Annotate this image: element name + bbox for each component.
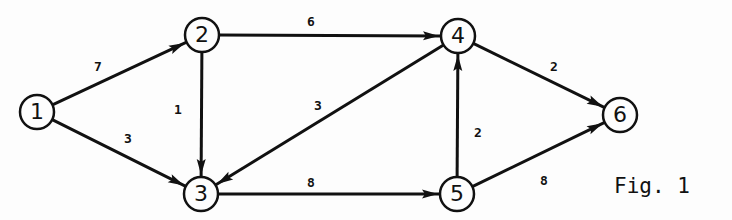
node-label: 5 [450, 181, 464, 206]
node-3: 3 [184, 177, 218, 211]
edge-weight-label: 3 [124, 131, 132, 146]
node-4: 4 [441, 19, 475, 53]
node-6: 6 [603, 98, 637, 132]
edge-line [472, 122, 604, 186]
edges-layer: 731638228 [52, 14, 605, 199]
edge-weight-label: 1 [174, 102, 182, 117]
edge-weight-label: 6 [307, 14, 315, 29]
edge-line [215, 45, 443, 185]
graph-svg: 731638228 123456 Fig. 1 [0, 0, 732, 220]
edge-line [52, 120, 186, 187]
edge-line [473, 43, 604, 107]
edge-2-4: 6 [219, 14, 441, 41]
edge-line [201, 52, 202, 177]
edge-3-5: 8 [218, 175, 440, 199]
edge-weight-label: 3 [314, 98, 322, 113]
edge-weight-label: 8 [540, 173, 548, 188]
edge-4-6: 2 [473, 43, 604, 107]
node-label: 6 [613, 102, 627, 127]
graph-diagram: 731638228 123456 Fig. 1 [0, 0, 732, 220]
edge-4-3: 3 [215, 45, 443, 185]
edge-line [457, 53, 458, 177]
edge-2-3: 1 [174, 52, 206, 177]
node-label: 1 [30, 99, 44, 124]
edge-line [52, 42, 186, 105]
node-label: 3 [194, 181, 208, 206]
edge-weight-label: 7 [94, 59, 102, 74]
edge-5-4: 2 [453, 53, 482, 177]
node-5: 5 [440, 177, 474, 211]
node-label: 2 [195, 22, 209, 47]
edge-weight-label: 2 [550, 59, 558, 74]
edge-weight-label: 8 [307, 175, 315, 190]
edge-1-3: 3 [52, 120, 186, 187]
figure-caption: Fig. 1 [614, 174, 690, 198]
edge-5-6: 8 [472, 122, 604, 187]
edge-weight-label: 2 [474, 125, 482, 140]
node-label: 4 [451, 23, 465, 48]
edge-1-2: 7 [52, 42, 186, 105]
node-2: 2 [185, 18, 219, 52]
node-1: 1 [20, 95, 54, 129]
edge-line [219, 35, 441, 36]
arrowhead-icon [217, 172, 233, 184]
